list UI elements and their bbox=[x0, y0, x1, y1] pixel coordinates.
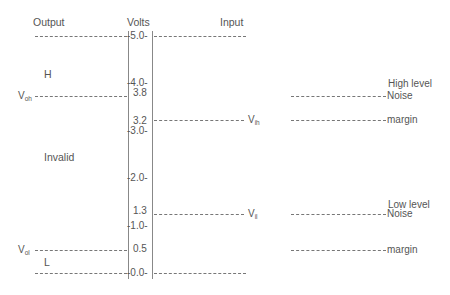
vil-main: V bbox=[248, 208, 255, 219]
output-header: Output bbox=[33, 17, 65, 27]
scale-tick-label: -5.0- bbox=[127, 31, 148, 41]
vil-label: Vil bbox=[248, 209, 258, 222]
vih-sub: ih bbox=[255, 119, 260, 126]
voh-label: Voh bbox=[18, 91, 32, 104]
low-noise-margin-top-line bbox=[291, 214, 386, 215]
threshold-value-label: 1.3 bbox=[133, 206, 147, 216]
volts-axis-left-line bbox=[128, 31, 129, 279]
vol-line bbox=[35, 250, 127, 251]
high-noise-margin-bottom-line bbox=[291, 120, 386, 121]
high-noise-margin-line2: Noise bbox=[387, 91, 413, 101]
vol-label: Vol bbox=[18, 245, 30, 258]
high-noise-margin-line3: margin bbox=[387, 115, 418, 125]
threshold-value-label: 3.2 bbox=[133, 116, 147, 126]
vol-sub: ol bbox=[25, 249, 30, 256]
input-0v-line bbox=[154, 273, 246, 274]
vol-main: V bbox=[18, 244, 25, 255]
volts-header: Volts bbox=[127, 17, 150, 27]
high-noise-margin-top-line bbox=[291, 96, 386, 97]
vih-label: Vih bbox=[248, 115, 260, 128]
high-noise-margin-line1: High level bbox=[388, 79, 432, 89]
output-5v-line bbox=[35, 36, 127, 37]
low-noise-margin-line2: Noise bbox=[387, 209, 413, 219]
vil-line bbox=[154, 214, 244, 215]
input-header: Input bbox=[220, 17, 243, 27]
voh-main: V bbox=[18, 90, 25, 101]
volts-axis-right-line bbox=[152, 31, 153, 279]
scale-tick-label: -2.0- bbox=[127, 173, 148, 183]
scale-tick-label: -0.0- bbox=[127, 268, 148, 278]
low-noise-margin-bottom-line bbox=[291, 250, 386, 251]
scale-tick-label: -3.0- bbox=[127, 126, 148, 136]
threshold-value-label: 3.8 bbox=[133, 88, 147, 98]
vih-main: V bbox=[248, 114, 255, 125]
output-0v-line bbox=[35, 273, 127, 274]
voh-sub: oh bbox=[25, 95, 32, 102]
high-state-label: H bbox=[44, 69, 52, 79]
scale-tick-label: -1.0- bbox=[127, 221, 148, 231]
voh-line bbox=[35, 96, 127, 97]
low-noise-margin-line3: margin bbox=[387, 245, 418, 255]
invalid-state-label: Invalid bbox=[44, 152, 74, 162]
threshold-value-label: 0.5 bbox=[133, 244, 147, 254]
vil-sub: il bbox=[255, 213, 258, 220]
low-state-label: L bbox=[44, 257, 50, 267]
input-5v-line bbox=[154, 36, 246, 37]
vih-line bbox=[154, 120, 244, 121]
